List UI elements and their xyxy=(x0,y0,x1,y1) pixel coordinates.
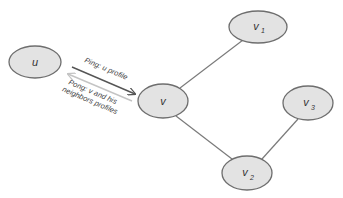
ping-label: Ping: u profile xyxy=(83,56,129,82)
pong-message: Pong: v and his neighbors profiles xyxy=(61,74,132,116)
edge-v-v1 xyxy=(180,40,243,88)
network-diagram: Ping: u profile Pong: v and his neighbor… xyxy=(0,0,343,198)
node-v1: v 1 xyxy=(229,11,287,43)
edges xyxy=(176,40,298,159)
node-u: u xyxy=(9,46,61,78)
edge-v2-v3 xyxy=(262,119,298,159)
pong-label: Pong: v and his neighbors profiles xyxy=(61,76,123,116)
node-u-label: u xyxy=(32,56,38,68)
node-v2: v 2 xyxy=(222,156,272,190)
node-v1-subscript: 1 xyxy=(261,27,265,34)
edge-v-v2 xyxy=(176,116,232,159)
node-v3: v 3 xyxy=(283,86,333,120)
node-v: v xyxy=(138,84,188,118)
node-v3-subscript: 3 xyxy=(311,104,315,111)
node-v2-subscript: 2 xyxy=(249,174,254,181)
